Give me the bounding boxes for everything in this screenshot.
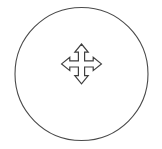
move-arrows-icon: [62, 44, 102, 84]
circle-outline: [15, 8, 148, 141]
icon-canvas: Move: [0, 0, 162, 149]
move-tool-button[interactable]: [0, 0, 162, 149]
